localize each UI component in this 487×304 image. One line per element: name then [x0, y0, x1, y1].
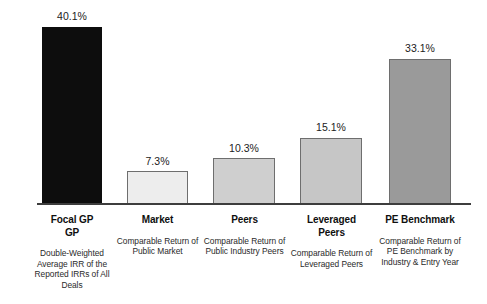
category-desc-leveraged-peers: Comparable Return of Leveraged Peers — [287, 248, 376, 269]
bar-value-label-4: 15.1% — [300, 121, 362, 133]
x-axis-line — [37, 203, 471, 205]
category-name-peers: Peers — [200, 214, 289, 227]
bar-peers — [213, 158, 275, 204]
plot-area: 40.1% 7.3% 10.3% 15.1% 33.1% — [0, 0, 487, 205]
bar-pe-benchmark — [389, 59, 451, 204]
category-name-line1: Market — [142, 214, 174, 225]
bar-value-label-3: 10.3% — [213, 142, 275, 154]
category-name-line1: Focal GP — [51, 214, 94, 225]
category-desc-focal-gp: Double-Weighted Average IRR of the Repor… — [28, 248, 116, 290]
bar-market — [127, 171, 188, 204]
category-pe-benchmark: PE Benchmark Comparable Return of PE Ben… — [375, 206, 465, 267]
bar-focal-gp — [42, 27, 102, 204]
category-name-line1: PE Benchmark — [385, 214, 454, 225]
category-leveraged-peers: Leveraged Peers Comparable Return of Lev… — [287, 206, 376, 269]
bar-chart: 40.1% 7.3% 10.3% 15.1% 33.1% Focal GP GP… — [0, 0, 487, 304]
bar-leveraged-peers — [300, 138, 362, 204]
category-focal-gp: Focal GP GP Double-Weighted Average IRR … — [28, 206, 116, 290]
category-name-pe-benchmark: PE Benchmark — [375, 214, 465, 227]
category-name-line1: Peers — [231, 214, 258, 225]
category-name-line1: Leveraged — [307, 214, 356, 225]
category-desc-peers: Comparable Return of Public Industry Pee… — [200, 236, 289, 257]
category-name-focal-gp: Focal GP GP — [28, 214, 116, 239]
bar-value-label-2: 7.3% — [127, 155, 188, 167]
category-peers: Peers Comparable Return of Public Indust… — [200, 206, 289, 257]
category-labels: Focal GP GP Double-Weighted Average IRR … — [0, 206, 487, 304]
bar-value-label-1: 40.1% — [42, 10, 102, 22]
category-desc-pe-benchmark: Comparable Return of PE Benchmark by Ind… — [375, 236, 465, 268]
category-market: Market Comparable Return of Public Marke… — [113, 206, 202, 257]
category-name-leveraged-peers: Leveraged Peers — [287, 214, 376, 239]
bar-value-label-5: 33.1% — [389, 42, 451, 54]
category-desc-market: Comparable Return of Public Market — [113, 236, 202, 257]
category-name-line2: Peers — [318, 227, 345, 238]
category-name-line2: GP — [65, 227, 79, 238]
category-name-market: Market — [113, 214, 202, 227]
